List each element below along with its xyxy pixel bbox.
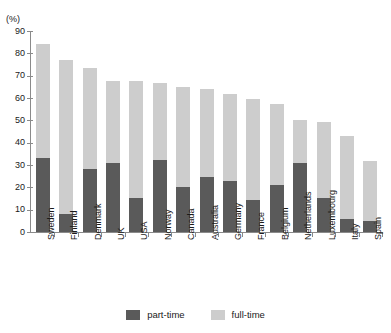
chart-legend: part-timefull-time (0, 307, 391, 323)
legend-swatch-part-time (126, 310, 140, 320)
x-axis-label-sweden: Sweden (47, 207, 56, 240)
x-axis-label-netherlands: Netherlands (304, 191, 313, 240)
y-axis-tick-label: 70 (3, 71, 25, 80)
x-axis-label-denmark: Denmark (94, 203, 103, 240)
bar-segment-full-time (270, 104, 284, 185)
y-axis-tick-label: 10 (3, 205, 25, 214)
y-axis-line (30, 31, 31, 233)
bar-segment-full-time (153, 83, 167, 160)
legend-item-full-time: full-time (211, 310, 265, 320)
bar-segment-full-time (200, 89, 214, 177)
bar-uk (106, 81, 120, 232)
y-axis-tick-label: 90 (3, 27, 25, 36)
bar-finland (59, 60, 73, 232)
y-axis-tick-label: 20 (3, 183, 25, 192)
bar-usa (129, 81, 143, 232)
x-axis-label-usa: USA (140, 221, 149, 240)
bar-segment-full-time (83, 68, 97, 169)
x-axis-label-norway: Norway (164, 209, 173, 240)
bar-segment-full-time (340, 136, 354, 219)
x-axis-label-finland: Finland (70, 210, 79, 240)
x-axis-label-germany: Germany (234, 203, 243, 240)
bar-segment-full-time (59, 60, 73, 214)
legend-label: part-time (147, 310, 184, 320)
cropped-caption-remnant (6, 0, 306, 7)
bar-segment-full-time (36, 44, 50, 157)
x-axis-label-belgium: Belgium (281, 207, 290, 240)
y-axis-tick-label: 0 (3, 228, 25, 237)
legend-label: full-time (232, 310, 265, 320)
x-axis-label-luxembourg: Luxembourg (328, 190, 337, 240)
y-axis-tick-label: 80 (3, 49, 25, 58)
x-axis-label-france: France (257, 212, 266, 240)
x-axis-label-australia: Australia (211, 205, 220, 240)
bar-segment-full-time (293, 120, 307, 163)
bar-sweden (36, 44, 50, 232)
bar-segment-full-time (176, 87, 190, 187)
legend-item-part-time: part-time (126, 310, 184, 320)
bar-segment-full-time (363, 161, 377, 220)
bar-segment-full-time (129, 81, 143, 198)
y-axis-tick-label: 30 (3, 161, 25, 170)
bar-segment-part-time (106, 163, 120, 232)
y-axis-tick-label: 40 (3, 138, 25, 147)
stacked-bar-chart: (%) 0102030405060708090 SwedenFinlandDen… (0, 0, 391, 333)
y-axis-tick-labels: 0102030405060708090 (0, 0, 25, 333)
bar-segment-full-time (317, 122, 331, 197)
x-axis-label-italy: Italy (351, 223, 360, 240)
bar-segment-full-time (246, 99, 260, 200)
bar-segment-full-time (106, 81, 120, 163)
bar-italy (340, 136, 354, 232)
legend-swatch-full-time (211, 310, 225, 320)
y-axis-tick-label: 60 (3, 94, 25, 103)
bar-segment-full-time (223, 94, 237, 181)
x-axis-label-spain: Spain (374, 217, 383, 240)
x-axis-label-canada: Canada (187, 208, 196, 240)
x-axis-label-uk: UK (117, 227, 126, 240)
y-axis-tick-label: 50 (3, 116, 25, 125)
